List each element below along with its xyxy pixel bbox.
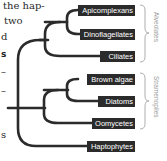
taxon-label-diatoms: Diatoms	[98, 96, 135, 107]
stramenopile-clade	[44, 90, 93, 123]
taxon-label-ciliates: Ciliates	[100, 51, 135, 62]
group-label-stramenopiles: Stramenopiles	[153, 76, 160, 128]
alveolates-bracket	[140, 5, 149, 62]
taxon-label-haptophytes: Haptophytes	[87, 141, 135, 152]
taxon-label-apicomplexans: Apicomplexans	[78, 5, 135, 16]
taxon-label-brown-algae: Brown algae	[87, 74, 135, 85]
group-label-alveolates: Alveolates	[153, 12, 160, 56]
taxon-label-oomycetes: Oomycetes	[92, 118, 135, 129]
stramenopiles-bracket	[140, 73, 149, 129]
taxon-label-dinoflagellates: Dinoflagellates	[80, 29, 135, 40]
phylogenetic-tree	[0, 0, 167, 161]
